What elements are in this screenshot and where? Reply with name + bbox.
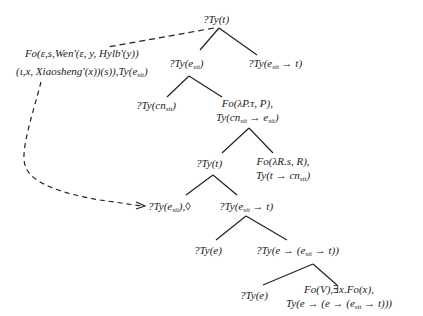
node-n12-text-1: Fo(V),∃x.Fo(x), [286, 282, 392, 296]
node-n3: ?Ty(cnsit) [136, 98, 176, 112]
annotation-text-2: (ι,x, Xiaosheng'(x))(s)),Ty(esit) [16, 65, 148, 77]
node-root-text: ?Ty(t) [203, 12, 229, 26]
node-n4-text-2: Ty(cnsit → esit) [216, 110, 279, 124]
dashed-arrow-annotation-n7 [24, 82, 142, 206]
node-n4: Fo(λP.τ, P), Ty(cnsit → esit) [216, 96, 279, 124]
annotation-text-1: Fo(ε,s,Wen'(ε, y, Hylb'(y)) [25, 47, 139, 59]
node-n8: ?Ty(esit → t) [219, 199, 273, 213]
node-n12-text-2: Ty(e → (e → (esit → t))) [286, 296, 392, 310]
node-n1-text: ?Ty(esit) [169, 56, 204, 70]
node-n2-text: ?Ty(esit → t) [248, 56, 302, 70]
node-annotation: Fo(ε,s,Wen'(ε, y, Hylb'(y)) (ι,x, Xiaosh… [16, 46, 148, 78]
node-n7: ?Ty(esit),◊ [148, 199, 191, 213]
node-n7-text: ?Ty(esit),◊ [148, 199, 191, 213]
edge-root-n1 [200, 28, 219, 50]
node-n6-text-2: Ty(t → cnsit) [256, 168, 310, 182]
edge-n4-n5 [222, 128, 249, 153]
edge-n5-n8 [213, 175, 237, 195]
annotation-line-2: (ι,x, Xiaosheng'(x))(s)),Ty(esit) [16, 64, 148, 78]
node-n10-text: ?Ty(e → (esit → t)) [256, 243, 339, 257]
edge-n1-n4 [189, 76, 222, 97]
edge-n8-n9 [216, 216, 246, 240]
edge-n5-n7 [186, 175, 213, 195]
edge-root-n2 [219, 28, 257, 55]
edge-n8-n10 [246, 216, 287, 240]
edge-n1-n3 [167, 76, 189, 97]
dashed-link-root-annotation [108, 28, 214, 47]
node-n4-text-1: Fo(λP.τ, P), [216, 96, 279, 110]
node-n9: ?Ty(e) [194, 243, 222, 257]
node-n6: Fo(λR.s, R), Ty(t → cnsit) [256, 154, 310, 182]
node-root: ?Ty(t) [203, 12, 229, 26]
node-n10: ?Ty(e → (esit → t)) [256, 243, 339, 257]
node-n9-text: ?Ty(e) [194, 243, 222, 257]
node-n11-text: ?Ty(e) [240, 288, 268, 302]
node-n1: ?Ty(esit) [169, 56, 204, 70]
node-n8-text: ?Ty(esit → t) [219, 199, 273, 213]
node-n11: ?Ty(e) [240, 288, 268, 302]
node-n12: Fo(V),∃x.Fo(x), Ty(e → (e → (esit → t))) [286, 282, 392, 310]
node-n5-text: ?Ty(t) [196, 156, 222, 170]
edge-n4-n6 [249, 128, 273, 153]
node-n5: ?Ty(t) [196, 156, 222, 170]
node-n6-text-1: Fo(λR.s, R), [256, 154, 310, 168]
annotation-line-1: Fo(ε,s,Wen'(ε, y, Hylb'(y)) [16, 46, 148, 60]
node-n2: ?Ty(esit → t) [248, 56, 302, 70]
node-n3-text: ?Ty(cnsit) [136, 98, 176, 112]
